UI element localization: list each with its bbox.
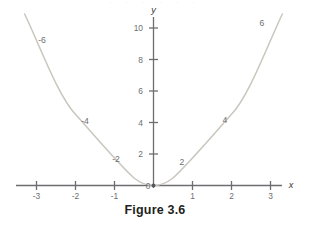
curve-annotation: -2: [112, 154, 120, 164]
x-tick-label: 2: [229, 191, 234, 201]
parabola-plot: -3 -2 -1 1 2 3 0 2 4 6 8 10 x y -6 -4 -2…: [0, 0, 310, 205]
y-tick-label: 10: [134, 23, 144, 33]
x-tick-label: -3: [33, 191, 41, 201]
curve-annotation: -4: [81, 116, 89, 126]
x-axis-label: x: [288, 180, 294, 190]
curve-annotation: 2: [180, 157, 185, 167]
origin-label: 0: [146, 181, 151, 191]
y-tick-labels: 2 4 6 8 10: [134, 23, 144, 159]
curve-annotation: -6: [38, 35, 46, 45]
curve-annotations: -6 -4 -2 2 4 6: [38, 18, 264, 167]
y-tick-label: 6: [138, 86, 143, 96]
x-tick-labels: -3 -2 -1 1 2 3: [33, 191, 273, 201]
y-tick-label: 2: [138, 149, 143, 159]
x-tick-label: 1: [190, 191, 195, 201]
figure-container: · · · · · · -3 -2: [0, 0, 310, 227]
curve-annotation: 4: [223, 115, 228, 125]
curve-annotation: 6: [260, 18, 265, 28]
y-tick-label: 8: [138, 55, 143, 65]
x-tick-label: -1: [111, 191, 119, 201]
y-tick-label: 4: [138, 118, 143, 128]
x-tick-label: 3: [268, 191, 273, 201]
x-tick-label: -2: [72, 191, 80, 201]
y-axis-label: y: [150, 5, 157, 15]
figure-caption: Figure 3.6: [0, 203, 310, 217]
origin-point: [152, 184, 156, 188]
